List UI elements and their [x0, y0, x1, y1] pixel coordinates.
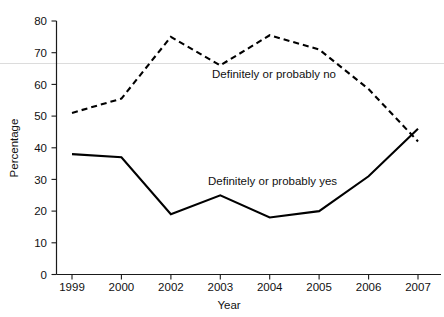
series-annotation-no: Definitely or probably no — [212, 68, 336, 80]
x-tick-labels: 1999 2000 2002 2003 2004 2005 2006 2007 — [59, 281, 431, 293]
y-tick-label: 60 — [34, 79, 47, 91]
x-tick-label: 2002 — [158, 281, 184, 293]
y-tick-label: 0 — [41, 269, 47, 281]
x-axis-title: Year — [217, 299, 240, 311]
y-tick-label: 20 — [34, 205, 47, 217]
y-tick-label: 30 — [34, 174, 47, 186]
y-tick-label: 80 — [34, 15, 47, 27]
x-tick-label: 2006 — [356, 281, 382, 293]
x-tick-label: 2007 — [405, 281, 431, 293]
x-tick-label: 2004 — [257, 281, 283, 293]
series-annotation-yes: Definitely or probably yes — [208, 175, 337, 187]
x-tick-marks — [72, 275, 418, 280]
y-tick-marks — [52, 21, 57, 275]
series-line-definitely-or-probably-no — [72, 35, 418, 141]
y-tick-label: 70 — [34, 47, 47, 59]
chart-canvas: 80 70 60 50 40 30 20 10 0 1999 2000 2002 — [0, 0, 444, 317]
y-tick-labels: 80 70 60 50 40 30 20 10 0 — [34, 15, 47, 281]
x-tick-label: 2003 — [208, 281, 234, 293]
y-tick-label: 10 — [34, 237, 47, 249]
y-tick-label: 50 — [34, 110, 47, 122]
line-chart: 80 70 60 50 40 30 20 10 0 1999 2000 2002 — [0, 0, 444, 317]
y-axis-title: Percentage — [8, 119, 20, 178]
x-tick-label: 2005 — [306, 281, 332, 293]
x-tick-label: 2000 — [109, 281, 135, 293]
x-tick-label: 1999 — [59, 281, 85, 293]
y-tick-label: 40 — [34, 142, 47, 154]
series-line-definitely-or-probably-yes — [72, 129, 418, 218]
